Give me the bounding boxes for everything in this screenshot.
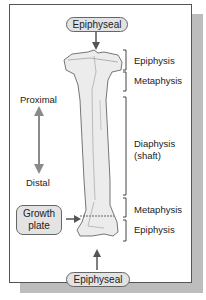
region-metaphysis-top: Metaphysis bbox=[134, 75, 182, 86]
region-epiphysis-top: Epiphysis bbox=[134, 55, 175, 66]
growth-plate-pill: Growth plate bbox=[16, 205, 62, 235]
bone-illustration bbox=[0, 0, 206, 300]
region-diaphysis-sub: (shaft) bbox=[134, 150, 161, 161]
growth-plate-line1: Growth bbox=[17, 208, 61, 220]
epiphyseal-bottom-pill: Epiphyseal bbox=[66, 272, 130, 287]
region-diaphysis: Diaphysis bbox=[134, 138, 175, 149]
distal-label: Distal bbox=[26, 177, 50, 188]
proximal-label: Proximal bbox=[20, 94, 57, 105]
epiphyseal-top-pill: Epiphyseal bbox=[66, 17, 128, 32]
region-epiphysis-bottom: Epiphysis bbox=[134, 224, 175, 235]
growth-plate-line2: plate bbox=[17, 220, 61, 232]
region-metaphysis-bottom: Metaphysis bbox=[134, 204, 182, 215]
